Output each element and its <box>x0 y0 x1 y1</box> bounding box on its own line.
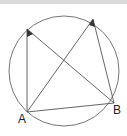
segment-AQ <box>27 19 93 112</box>
circle <box>9 16 119 126</box>
segment-PB <box>27 29 114 103</box>
segment-AB <box>27 103 114 112</box>
segment-QB <box>93 19 114 103</box>
label-A: A <box>18 113 26 125</box>
label-B: B <box>113 104 121 116</box>
